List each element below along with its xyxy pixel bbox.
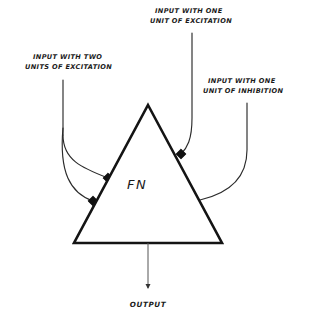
- output-label: OUTPUT: [130, 300, 167, 309]
- input-label-one-excitation-line1: INPUT WITH ONE: [155, 7, 223, 15]
- diagram-canvas: INPUT WITH TWO UNITS OF EXCITATION INPUT…: [0, 0, 315, 320]
- input-label-one-inhibition-line2: UNIT OF INHIBITION: [203, 87, 283, 95]
- input-label-one-excitation-line2: UNIT OF EXCITATION: [150, 17, 232, 25]
- input-stem-one-excitation: [181, 33, 192, 154]
- formal-neuron-diagram: INPUT WITH TWO UNITS OF EXCITATION INPUT…: [0, 0, 315, 320]
- input-group-one-inhibition[interactable]: INPUT WITH ONE UNIT OF INHIBITION: [193, 77, 284, 204]
- neuron-body-label: FN: [127, 177, 147, 192]
- input-label-one-inhibition-line1: INPUT WITH ONE: [208, 77, 276, 85]
- input-stem-one-inhibition: [200, 103, 247, 200]
- input-branch-two-excitation-b: [62, 128, 93, 201]
- input-label-two-excitation-line1: INPUT WITH TWO: [33, 53, 102, 61]
- input-branch-two-excitation-a: [63, 135, 108, 178]
- neuron-body-triangle[interactable]: [74, 105, 222, 243]
- output-group: OUTPUT: [130, 243, 167, 309]
- input-label-two-excitation-line2: UNITS OF EXCITATION: [25, 63, 112, 71]
- input-group-two-excitation[interactable]: INPUT WITH TWO UNITS OF EXCITATION: [25, 53, 113, 206]
